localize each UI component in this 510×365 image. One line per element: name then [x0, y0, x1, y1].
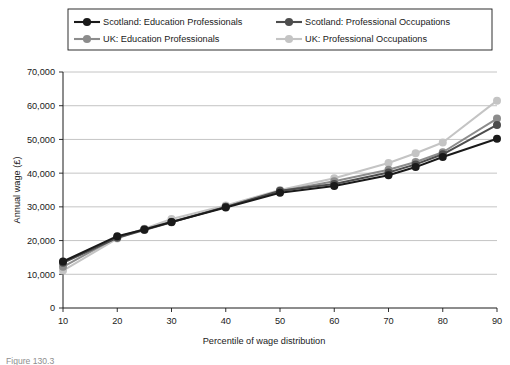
data-point: [140, 225, 148, 233]
data-point: [222, 204, 230, 212]
legend-marker-dot: [285, 35, 293, 43]
y-axis-tick-label: 40,000: [27, 169, 55, 179]
data-point: [59, 257, 67, 265]
chart-svg: Scotland: Education Professionals Scotla…: [0, 0, 510, 365]
data-point: [330, 182, 338, 190]
data-point: [276, 189, 284, 197]
data-point: [412, 163, 420, 171]
data-point: [493, 135, 501, 143]
figure-caption: Figure 130.3: [6, 356, 54, 365]
x-axis-tick-label: 90: [492, 316, 502, 326]
legend-marker-dot: [83, 18, 91, 26]
chart-figure: Scotland: Education Professionals Scotla…: [0, 0, 510, 365]
legend-label: UK: Education Professionals: [103, 34, 220, 44]
legend-marker-dot: [285, 18, 293, 26]
data-point: [439, 138, 447, 146]
chart-legend: Scotland: Education Professionals Scotla…: [68, 9, 492, 50]
data-point: [385, 171, 393, 179]
data-point: [439, 153, 447, 161]
data-point: [493, 97, 501, 105]
x-axis-tick-label: 60: [329, 316, 339, 326]
x-axis-title: Percentile of wage distribution: [203, 336, 326, 346]
data-point: [412, 149, 420, 157]
x-axis-tick-label: 40: [221, 316, 231, 326]
legend-label: UK: Professional Occupations: [305, 34, 427, 44]
y-axis-tick-label: 10,000: [27, 270, 55, 280]
data-point: [168, 218, 176, 226]
y-axis-tick-label: 50,000: [27, 135, 55, 145]
y-axis-tick-label: 60,000: [27, 101, 55, 111]
y-axis-tick-label: 20,000: [27, 236, 55, 246]
y-axis-tick-label: 30,000: [27, 202, 55, 212]
legend-marker-dot: [83, 35, 91, 43]
x-axis-tick-label: 50: [275, 316, 285, 326]
y-axis-tick-label: 70,000: [27, 67, 55, 77]
x-axis-tick-label: 70: [383, 316, 393, 326]
figure-background: [0, 0, 510, 365]
legend-label: Scotland: Education Professionals: [103, 17, 243, 27]
x-axis-tick-label: 10: [58, 316, 68, 326]
x-axis-tick-label: 20: [112, 316, 122, 326]
y-axis-title: Annual wage (£): [12, 157, 22, 224]
y-axis-tick-label: 0: [50, 303, 55, 313]
x-axis-tick-label: 30: [166, 316, 176, 326]
data-point: [113, 232, 121, 240]
x-axis-tick-label: 80: [438, 316, 448, 326]
legend-label: Scotland: Professional Occupations: [305, 17, 450, 27]
data-point: [493, 121, 501, 129]
